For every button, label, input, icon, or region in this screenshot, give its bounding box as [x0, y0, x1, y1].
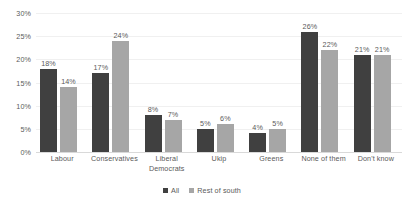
bar[interactable]: 21%: [374, 55, 391, 152]
legend-swatch-icon: [163, 188, 168, 193]
bar[interactable]: 8%: [145, 115, 162, 152]
bar[interactable]: 14%: [60, 87, 77, 152]
bar-value-label: 17%: [93, 63, 108, 72]
legend-label: All: [171, 186, 179, 195]
bar[interactable]: 26%: [301, 32, 318, 152]
bar-value-label: 22%: [323, 40, 338, 49]
bar-value-label: 4%: [252, 123, 263, 132]
x-tick-label: Conservatives: [88, 154, 140, 164]
plot-area: 18%14%17%24%8%7%5%6%4%5%26%22%21%21%: [36, 13, 402, 152]
bar-value-label: 24%: [113, 31, 128, 40]
bar-value-label: 18%: [41, 59, 56, 68]
y-tick-label: 5%: [20, 124, 31, 133]
x-tick-label: Don't know: [350, 154, 402, 164]
bar[interactable]: 4%: [249, 133, 266, 152]
x-tick-label: None of them: [297, 154, 349, 164]
bar[interactable]: 22%: [321, 50, 338, 152]
bar-chart: 0%5%10%15%20%25%30% 18%14%17%24%8%7%5%6%…: [0, 0, 404, 206]
bar[interactable]: 6%: [217, 124, 234, 152]
legend-label: Rest of south: [197, 186, 241, 195]
y-axis: 0%5%10%15%20%25%30%: [0, 0, 36, 160]
y-tick-label: 20%: [16, 55, 31, 64]
x-tick-label: Labour: [36, 154, 88, 164]
y-tick-label: 0%: [20, 148, 31, 157]
bar[interactable]: 24%: [112, 41, 129, 152]
chart-legend: AllRest of south: [0, 186, 404, 195]
y-tick-label: 30%: [16, 9, 31, 18]
bar-group: 5%6%: [193, 13, 245, 152]
bar-value-label: 26%: [303, 22, 318, 31]
bar-group: 18%14%: [36, 13, 88, 152]
bar-value-label: 7%: [168, 110, 179, 119]
legend-item[interactable]: Rest of south: [189, 186, 241, 195]
bar[interactable]: 18%: [40, 69, 57, 152]
bar-value-label: 5%: [200, 119, 211, 128]
bar-value-label: 6%: [220, 114, 231, 123]
legend-item[interactable]: All: [163, 186, 179, 195]
y-tick-label: 15%: [16, 78, 31, 87]
bar[interactable]: 5%: [197, 129, 214, 152]
bar-group: 26%22%: [297, 13, 349, 152]
bar[interactable]: 17%: [92, 73, 109, 152]
bar[interactable]: 5%: [269, 129, 286, 152]
x-tick-label: Liberal Democrats: [141, 154, 193, 173]
bar-value-label: 21%: [375, 45, 390, 54]
x-tick-label: Ukip: [193, 154, 245, 164]
bar-group: 17%24%: [88, 13, 140, 152]
y-tick-label: 10%: [16, 101, 31, 110]
legend-swatch-icon: [189, 188, 194, 193]
bar-group: 21%21%: [350, 13, 402, 152]
bar-value-label: 5%: [272, 119, 283, 128]
y-tick-label: 25%: [16, 32, 31, 41]
bar-value-label: 14%: [61, 77, 76, 86]
bar[interactable]: 7%: [165, 120, 182, 152]
x-tick-label: Greens: [245, 154, 297, 164]
axis-baseline: [36, 152, 402, 153]
bar-value-label: 21%: [355, 45, 370, 54]
bar[interactable]: 21%: [354, 55, 371, 152]
bar-group: 8%7%: [141, 13, 193, 152]
bar-group: 4%5%: [245, 13, 297, 152]
x-axis: LabourConservativesLiberal DemocratsUkip…: [36, 154, 402, 182]
bar-value-label: 8%: [148, 105, 159, 114]
